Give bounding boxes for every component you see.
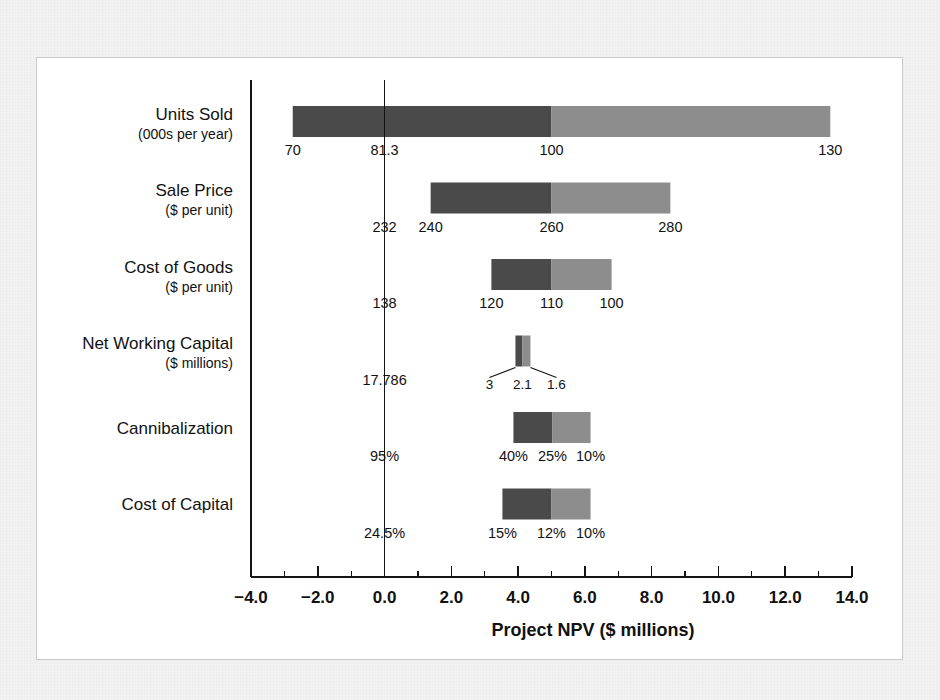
base-label-5: 12%	[537, 525, 566, 541]
x-tick-label-1: −2.0	[301, 588, 335, 607]
x-tick-label-3: 2.0	[440, 588, 464, 607]
high-label-3: 1.6	[547, 377, 566, 392]
category-label-3: Net Working Capital	[82, 334, 233, 353]
x-tick-label-9: 14.0	[835, 588, 868, 607]
category-label-4: Cannibalization	[117, 419, 233, 438]
low-label-0: 70	[285, 142, 301, 158]
x-tick-label-7: 10.0	[702, 588, 735, 607]
bar-high-cannibalization	[553, 412, 591, 443]
chart-frame: 81.37010013023224026028013812011010017.7…	[36, 57, 903, 660]
x-tick-label-2: 0.0	[373, 588, 397, 607]
category-sublabel-0: (000s per year)	[138, 126, 233, 142]
tornado-chart: 81.37010013023224026028013812011010017.7…	[37, 58, 904, 661]
high-label-0: 130	[818, 142, 842, 158]
bar-low-sale-price	[431, 183, 552, 214]
base-label-0: 100	[539, 142, 563, 158]
x-tick-label-4: 4.0	[506, 588, 530, 607]
base-label-2: 110	[540, 295, 563, 311]
low-label-5: 15%	[488, 525, 517, 541]
bar-high-units-sold	[552, 106, 831, 137]
high-label-2: 100	[599, 295, 623, 311]
x-tick-label-8: 12.0	[769, 588, 802, 607]
x-axis-title: Project NPV ($ millions)	[491, 620, 694, 640]
bar-high-cost-of-capital	[552, 489, 591, 520]
category-labels-layer: Units Sold(000s per year)Sale Price($ pe…	[82, 105, 233, 515]
leader-line-3-2	[530, 368, 556, 378]
high-label-1: 280	[658, 219, 682, 235]
bar-high-net-working-capital	[522, 336, 530, 367]
x-tick-label-0: −4.0	[234, 588, 268, 607]
low-label-2: 120	[479, 295, 503, 311]
bar-low-cannibalization	[513, 412, 552, 443]
x-tick-label-6: 8.0	[640, 588, 664, 607]
bar-high-sale-price	[552, 183, 671, 214]
category-label-5: Cost of Capital	[122, 495, 234, 514]
base-label-4: 25%	[538, 448, 567, 464]
leader-line-3-0	[489, 368, 515, 378]
bar-low-cost-of-goods	[491, 259, 551, 290]
bar-low-units-sold	[293, 106, 552, 137]
low-label-3: 3	[486, 377, 494, 392]
x-tick-label-5: 6.0	[573, 588, 597, 607]
bar-high-cost-of-goods	[552, 259, 612, 290]
base-label-3: 2.1	[513, 377, 532, 392]
bar-low-net-working-capital	[515, 336, 522, 367]
base-label-1: 260	[539, 219, 563, 235]
category-sublabel-1: ($ per unit)	[165, 202, 233, 218]
low-label-4: 40%	[499, 448, 528, 464]
high-label-5: 10%	[576, 525, 605, 541]
page-canvas: 81.37010013023224026028013812011010017.7…	[0, 0, 940, 700]
category-sublabel-2: ($ per unit)	[165, 279, 233, 295]
category-label-1: Sale Price	[156, 181, 233, 200]
low-label-1: 240	[419, 219, 443, 235]
category-label-2: Cost of Goods	[124, 258, 233, 277]
bar-low-cost-of-capital	[502, 489, 551, 520]
category-label-0: Units Sold	[156, 105, 233, 124]
high-label-4: 10%	[576, 448, 605, 464]
category-sublabel-3: ($ millions)	[165, 355, 233, 371]
